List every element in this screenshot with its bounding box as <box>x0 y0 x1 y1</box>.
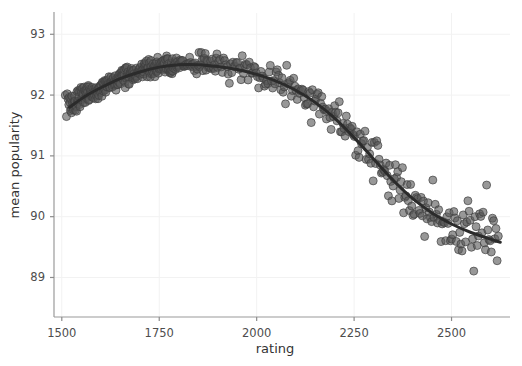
scatter-point <box>421 233 429 241</box>
scatter-point <box>318 93 326 101</box>
scatter-point <box>361 127 369 135</box>
scatter-point <box>484 226 492 234</box>
x-axis-title: rating <box>256 341 295 356</box>
scatter-point <box>490 217 498 225</box>
scatter-point <box>238 52 246 60</box>
x-tick-label: 2250 <box>339 326 368 340</box>
scatter-point <box>493 257 501 265</box>
scatter-point <box>435 206 443 214</box>
scatter-point <box>407 180 415 188</box>
y-tick-label: 93 <box>30 27 45 41</box>
scatter-point <box>408 202 416 210</box>
scatter-point <box>472 223 480 231</box>
scatter-point <box>479 208 487 216</box>
scatter-point <box>327 125 335 133</box>
scatter-plot-figure: 15001750200022502500 8990919293 rating m… <box>0 0 522 366</box>
x-tick-label: 1500 <box>47 326 76 340</box>
y-tick-label: 89 <box>30 270 45 284</box>
scatter-point <box>487 248 495 256</box>
figure-background <box>0 0 522 366</box>
scatter-point <box>283 61 291 69</box>
scatter-point <box>470 267 478 275</box>
scatter-point <box>282 100 290 108</box>
scatter-point <box>342 112 350 120</box>
x-tick-label: 2500 <box>437 326 466 340</box>
scatter-point <box>307 119 315 127</box>
y-tick-label: 91 <box>30 148 45 162</box>
y-tick-label: 90 <box>30 209 45 223</box>
scatter-point <box>334 109 342 117</box>
y-axis-title: mean popularity <box>7 111 22 218</box>
scatter-point <box>494 232 502 240</box>
chart-canvas: 15001750200022502500 8990919293 rating m… <box>0 0 522 366</box>
scatter-point <box>369 177 377 185</box>
x-tick-label: 2000 <box>242 326 271 340</box>
scatter-point <box>290 74 298 82</box>
scatter-point <box>458 247 466 255</box>
x-tick-label: 1750 <box>145 326 174 340</box>
scatter-point <box>278 74 286 82</box>
y-tick-label: 92 <box>30 88 45 102</box>
scatter-point <box>492 225 500 233</box>
scatter-point <box>335 98 343 106</box>
scatter-point <box>374 141 382 149</box>
scatter-point <box>429 176 437 184</box>
scatter-point <box>483 181 491 189</box>
scatter-point <box>225 79 233 87</box>
scatter-point <box>398 164 406 172</box>
scatter-point <box>266 61 274 69</box>
scatter-point <box>464 197 472 205</box>
